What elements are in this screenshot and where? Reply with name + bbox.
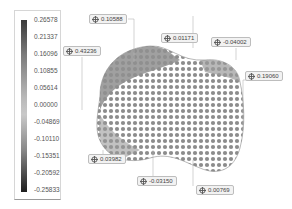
colorbar-tick-label: -0.25833 [34, 186, 60, 194]
crosshair-icon [214, 39, 221, 46]
colorbar-tick-label: -0.04869 [34, 118, 60, 126]
colorbar-tick-label: 0.21337 [34, 33, 58, 41]
colorbar-tick-label: -0.15351 [34, 152, 60, 160]
3d-model-viewport[interactable] [62, 0, 292, 209]
crosshair-icon [92, 16, 99, 23]
probe-annotation[interactable]: 0.01171 [161, 33, 198, 43]
probe-value: -0.03150 [149, 176, 173, 186]
crosshair-icon [164, 35, 171, 42]
colorbar-legend: 0.26578 0.21337 0.16096 0.10855 0.05614 … [14, 10, 61, 200]
colorbar-tick-label: 0.16096 [34, 50, 58, 58]
probe-annotation[interactable]: 0.03982 [88, 154, 126, 164]
colorbar-gradient [21, 20, 27, 192]
probe-annotation[interactable]: -0.03150 [137, 176, 177, 186]
probe-value: -0.04002 [223, 37, 247, 47]
probe-value: 0.43236 [75, 46, 97, 56]
crosshair-icon [140, 178, 147, 185]
crosshair-icon [66, 48, 73, 55]
probe-annotation[interactable]: 0.00769 [196, 185, 234, 195]
probe-annotation[interactable]: 0.43236 [63, 46, 101, 56]
probe-annotation[interactable]: 0.19060 [245, 71, 283, 81]
probe-value: 0.01171 [173, 33, 194, 43]
probe-annotation[interactable]: 0.10588 [89, 14, 127, 24]
colorbar-tick-label: -0.20592 [34, 169, 60, 177]
crosshair-icon [199, 187, 206, 194]
probe-annotation[interactable]: -0.04002 [211, 37, 251, 47]
probe-value: 0.00769 [208, 185, 230, 195]
crosshair-icon [91, 156, 98, 163]
probe-value: 0.10588 [101, 14, 123, 24]
probe-value: 0.19060 [257, 71, 279, 81]
crosshair-icon [248, 73, 255, 80]
colorbar-tick-label: 0.00000 [34, 101, 58, 109]
colorbar-tick-label: 0.05614 [34, 84, 58, 92]
colorbar-tick-label: 0.10855 [34, 67, 58, 75]
colorbar-tick-label: -0.10110 [34, 135, 59, 143]
colorbar-tick-label: 0.26578 [34, 16, 58, 24]
probe-value: 0.03982 [100, 154, 122, 164]
